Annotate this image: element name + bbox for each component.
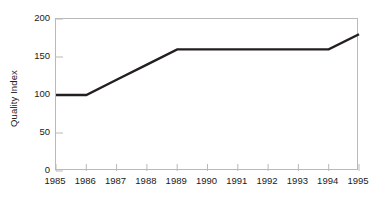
data-series-line (56, 34, 359, 95)
x-axis-tick-marks (56, 164, 359, 171)
y-axis-tick-label: 200 (10, 13, 50, 23)
y-axis-tick-labels: 050100150200 (5, 18, 50, 170)
y-axis-tick-label: 50 (10, 127, 50, 137)
data-series-group (56, 34, 359, 95)
x-axis-tick-labels: 1985198619871988198919901991199219931994… (55, 171, 358, 191)
y-axis-tick-label: 100 (10, 89, 50, 99)
line-chart-figure: Quality Index 050100150200 1985198619871… (0, 0, 375, 197)
y-axis-tick-label: 0 (10, 165, 50, 175)
x-axis-tick-label: 1995 (337, 175, 375, 186)
plot-svg (56, 19, 359, 171)
plot-area (55, 18, 358, 170)
y-axis-tick-label: 150 (10, 51, 50, 61)
